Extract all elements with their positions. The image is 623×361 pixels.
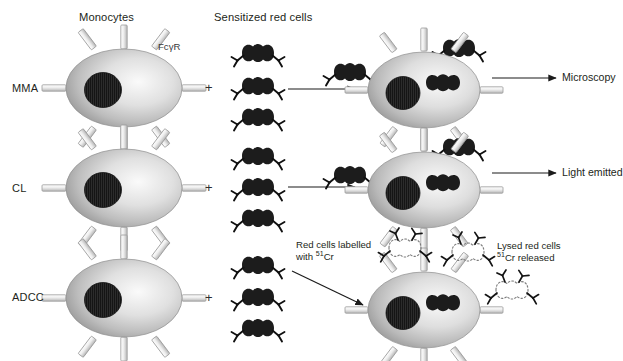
mma-target-red-cells [232,44,285,131]
row-label-adcc: ADCC [12,291,44,304]
row-label-mma: MMA [12,82,38,95]
adcc-output-isotope-superscript: 51 [497,251,505,259]
adcc-input-note-line1: Red cells labelled [296,239,371,250]
plus-sign-cl: + [205,180,213,195]
adcc-output-note-line2-post: released [515,252,554,263]
fcgamma-receptor-label: FcγR [158,41,180,52]
adcc-input-note: Red cells labelled with 51Cr [296,239,371,263]
plus-sign-adcc: + [205,290,213,305]
cl-result-monocyte [345,128,503,251]
adcc-input-isotope: Cr [324,251,334,262]
adcc-input-isotope-superscript: 51 [316,250,324,258]
plus-sign-mma: + [205,80,213,95]
adcc-output-isotope: Cr [505,252,515,263]
mma-bound-red-cell-left [324,63,377,86]
cl-monocyte [42,125,206,251]
cl-target-red-cells [232,147,285,232]
outcome-label-light-emitted: Light emitted [562,166,623,179]
adcc-monocyte [42,235,206,361]
outcome-label-microscopy: Microscopy [562,71,616,84]
column-header-monocytes: Monocytes [79,11,134,24]
column-header-sensitized-red-cells: Sensitized red cells [214,11,312,24]
row-mma [42,25,556,151]
adcc-output-note-line1: Lysed red cells [497,240,561,251]
adcc-input-note-line2-pre: with [296,251,316,262]
row-label-cl: CL [12,182,26,195]
row-cl [42,125,556,251]
adcc-output-note: Lysed red cells 51Cr released [497,240,561,264]
adcc-result-monocyte [345,248,503,361]
row-adcc [42,228,539,361]
adcc-reaction-arrow [292,271,363,305]
adcc-target-red-cells [232,256,285,342]
